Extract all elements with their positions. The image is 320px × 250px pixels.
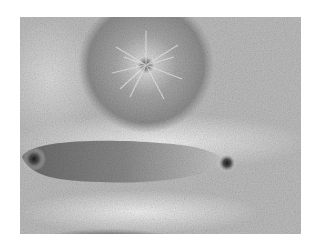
iron-filings-image: [20, 17, 301, 234]
iron-filings-photo: Iron filings magnetic field pattern: [20, 17, 301, 234]
